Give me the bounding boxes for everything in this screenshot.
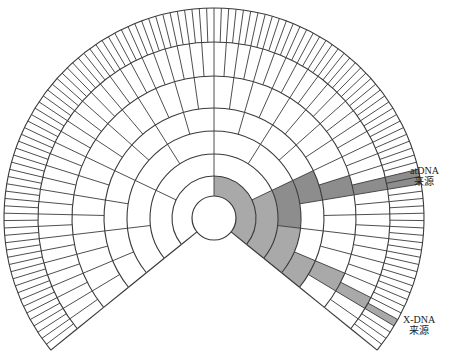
cell-divider [51,329,77,350]
cell-divider [355,324,382,344]
cell-divider [239,10,244,44]
cell-divider [234,44,239,78]
cell-divider [177,46,184,79]
cell-divider [170,13,177,46]
cell-divider [281,63,297,93]
cell-divider [138,98,155,125]
cell-divider [285,110,306,134]
cell-divider [341,73,366,96]
cell-divider [189,44,194,78]
cell-divider [292,30,307,61]
cell-divider [320,246,351,254]
atdna-source-label: atDNA 来源 [410,165,439,187]
cell-divider [105,228,128,231]
cell-divider [373,128,404,143]
cell-divider [163,14,171,47]
x-dna-shaded-cell [365,303,398,326]
cell-divider [38,314,67,332]
cell-divider [128,26,142,57]
cell-divider [207,8,208,42]
cell-divider [185,10,190,44]
cell-divider [259,88,272,117]
cell-divider [364,108,393,126]
cell-divider [6,245,40,250]
cell-divider [389,239,423,243]
cell-divider [181,232,197,245]
cell-divider [27,298,57,313]
cell-divider [105,200,128,204]
cell-divider [129,273,147,287]
cell-divider [306,139,333,157]
cell-divider [351,329,377,350]
cell-divider [92,275,119,291]
cell-divider [31,114,61,131]
cell-divider [79,175,110,185]
cell-divider [296,124,320,145]
cell-divider [46,165,78,175]
cell-divider [313,44,332,72]
fan-pedigree-chart [0,0,454,359]
cell-divider [183,112,189,134]
cell-divider [375,134,406,148]
center-circle [192,196,236,240]
cell-divider [328,58,350,84]
cell-divider [42,319,70,338]
cell-divider [248,144,260,163]
cell-divider [135,24,148,55]
cell-divider [353,90,380,111]
cell-divider [226,9,228,43]
cell-divider [115,171,136,181]
cell-divider [8,251,41,257]
cell-divider [389,233,423,236]
cell-divider [72,215,104,216]
cell-divider [155,125,167,144]
cell-divider [131,63,147,93]
cell-divider [355,202,389,205]
cell-divider [260,125,272,144]
cell-divider [224,42,226,76]
cell-divider [286,26,300,57]
cell-divider [356,225,390,227]
cell-divider [10,169,43,177]
cell-divider [39,202,73,205]
cell-divider [96,139,123,157]
cell-divider [384,263,417,272]
cell-divider [61,131,91,148]
cell-divider [389,198,423,201]
cell-divider [108,37,125,66]
cell-divider [35,108,64,126]
cell-divider [333,63,356,88]
cell-divider [34,308,63,325]
cell-divider [62,73,87,96]
cell-divider [351,254,384,263]
cell-divider [251,13,258,46]
cell-divider [165,49,174,82]
cell-divider [74,195,106,200]
cell-divider [168,144,180,163]
cell-divider [39,235,73,239]
cell-divider [357,96,385,116]
cell-divider [349,165,381,175]
cell-divider [374,292,405,306]
xdna-label-line1: X-DNA [403,314,435,325]
cell-divider [346,154,378,166]
cell-divider [320,101,345,124]
cell-divider [50,154,82,166]
cell-divider [175,82,184,113]
cell-divider [115,33,131,63]
cell-divider [21,286,52,299]
cell-divider [202,42,204,76]
cell-divider [104,287,129,307]
cell-divider [390,206,424,208]
cell-divider [18,281,50,293]
cell-divider [229,77,233,109]
cell-divider [244,46,251,79]
cell-divider [348,264,380,275]
cell-divider [313,92,337,116]
cell-divider [342,142,373,157]
cell-divider [5,239,39,243]
cell-divider [194,77,198,109]
cell-divider [164,244,181,258]
cell-divider [272,57,286,88]
cell-divider [67,68,91,92]
